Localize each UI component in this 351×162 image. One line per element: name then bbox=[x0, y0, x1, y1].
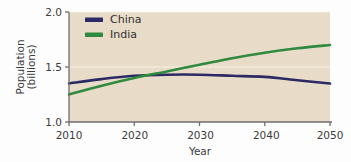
x-axis-title: Year bbox=[188, 145, 212, 157]
chart-canvas: 2.0 1.5 1.0 2010 2020 2030 2040 2050 Yea… bbox=[0, 0, 351, 162]
y-tick-label-0: 1.0 bbox=[45, 116, 62, 128]
legend-label-china: China bbox=[110, 13, 141, 26]
x-tick-label-2040: 2040 bbox=[253, 129, 280, 141]
y-axis-title-line2: (billions) bbox=[25, 44, 37, 89]
y-tick-label-2: 2.0 bbox=[45, 6, 62, 18]
legend-swatch-india bbox=[85, 33, 103, 38]
x-tick-label-2030: 2030 bbox=[187, 129, 214, 141]
y-tick-label-1: 1.5 bbox=[45, 61, 62, 73]
legend-label-india: India bbox=[110, 28, 137, 41]
x-tick-label-2050: 2050 bbox=[317, 129, 344, 141]
x-tick-label-2010: 2010 bbox=[56, 129, 83, 141]
legend-swatch-china bbox=[85, 18, 103, 23]
population-line-chart-figure: 2.0 1.5 1.0 2010 2020 2030 2040 2050 Yea… bbox=[0, 0, 351, 162]
x-tick-label-2020: 2020 bbox=[121, 129, 148, 141]
